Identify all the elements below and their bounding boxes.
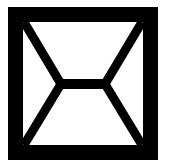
diagonal-top-right xyxy=(105,22,142,84)
diagonal-top-left xyxy=(24,22,61,84)
diagonal-bottom-right xyxy=(105,84,142,145)
diagonal-bottom-left xyxy=(24,84,61,145)
square-hourglass-diagram xyxy=(0,0,188,165)
